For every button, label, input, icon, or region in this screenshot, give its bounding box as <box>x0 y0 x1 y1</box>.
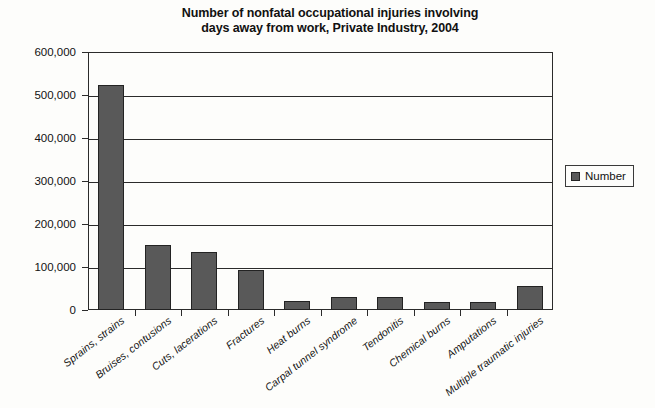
bar-slot <box>414 52 461 310</box>
y-axis-tick-label: 100,000 <box>0 261 76 273</box>
bar-slot <box>135 52 182 310</box>
legend-swatch-number <box>571 172 580 181</box>
bars-layer <box>88 52 553 310</box>
legend-label-number: Number <box>585 170 626 182</box>
bar <box>145 245 171 310</box>
y-axis-tick-label: 200,000 <box>0 218 76 230</box>
x-axis-category-label: Carpal tunnel syndrome <box>262 314 359 393</box>
bar <box>470 302 496 310</box>
bar <box>377 297 403 310</box>
bar-slot <box>228 52 275 310</box>
y-axis-tick-label: 500,000 <box>0 89 76 101</box>
bar <box>191 252 217 310</box>
bar-slot <box>507 52 554 310</box>
bar <box>331 297 357 310</box>
y-axis-tick-label: 400,000 <box>0 132 76 144</box>
legend: Number <box>565 165 634 187</box>
y-axis-tick-label: 300,000 <box>0 175 76 187</box>
x-axis-category-labels: Sprains, strainsBruises, contusionsCuts,… <box>0 310 655 408</box>
chart-title-line-2: days away from work, Private Industry, 2… <box>80 21 580 36</box>
x-axis-category-label: Tendonitis <box>360 314 406 353</box>
bar <box>517 286 543 311</box>
bar <box>424 302 450 310</box>
bar <box>238 270 264 310</box>
bar-slot <box>88 52 135 310</box>
bar-chart: Number of nonfatal occupational injuries… <box>0 0 655 408</box>
chart-title-line-1: Number of nonfatal occupational injuries… <box>80 6 580 21</box>
bar-slot <box>367 52 414 310</box>
bar-slot <box>460 52 507 310</box>
chart-title: Number of nonfatal occupational injuries… <box>80 6 580 36</box>
bar-slot <box>321 52 368 310</box>
bar-slot <box>181 52 228 310</box>
bar <box>284 301 310 310</box>
bar-slot <box>274 52 321 310</box>
bar <box>98 85 124 310</box>
y-axis-tick-label: 600,000 <box>0 46 76 58</box>
x-axis-category-label: Fractures <box>223 314 266 351</box>
